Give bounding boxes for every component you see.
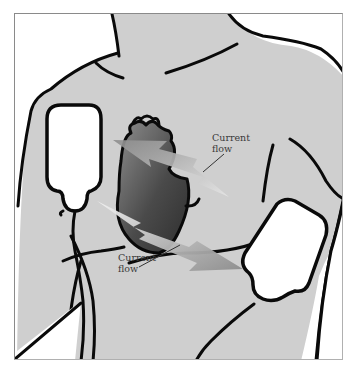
current-flow-label-upper: Current flow xyxy=(212,132,250,154)
diagram-frame: Current flow Current flow xyxy=(14,13,343,360)
chest-illustration xyxy=(15,14,343,360)
current-flow-label-lower: Current flow xyxy=(118,252,156,274)
